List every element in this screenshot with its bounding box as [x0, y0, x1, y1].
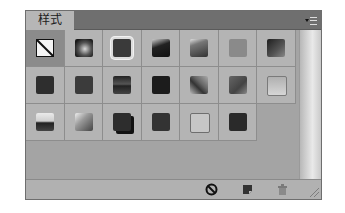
swatch-preview [113, 113, 131, 131]
swatch-preview [152, 76, 170, 94]
swatch-preview [75, 39, 93, 57]
swatch-preview [190, 39, 208, 57]
swatch-preview [229, 76, 247, 94]
no-style-icon [36, 39, 54, 57]
styles-grid [26, 30, 296, 141]
style-swatch-style-9[interactable] [65, 67, 104, 104]
styles-panel: 样式 [25, 10, 322, 200]
swatch-preview [152, 113, 170, 131]
resize-grip[interactable] [309, 187, 319, 197]
swatch-preview [229, 113, 247, 131]
swatch-preview [113, 76, 131, 94]
swatch-preview [36, 76, 54, 94]
style-swatch-style-3[interactable] [103, 30, 142, 67]
swatch-preview [229, 39, 247, 57]
swatch-preview [75, 113, 93, 131]
panel-header: 样式 [26, 11, 321, 30]
style-swatch-style-18[interactable] [142, 104, 181, 141]
style-swatch-style-10[interactable] [103, 67, 142, 104]
style-swatch-style-14[interactable] [257, 67, 296, 104]
style-swatch-style-15[interactable] [26, 104, 65, 141]
styles-content [26, 30, 299, 180]
style-swatch-style-8[interactable] [26, 67, 65, 104]
clear-style-icon[interactable] [205, 183, 218, 196]
swatch-preview [152, 39, 170, 57]
swatch-preview [36, 113, 54, 131]
style-swatch-style-11[interactable] [142, 67, 181, 104]
style-swatch-style-20[interactable] [219, 104, 258, 141]
style-swatch-style-6[interactable] [219, 30, 258, 67]
style-swatch-none[interactable] [26, 30, 65, 67]
style-swatch-style-16[interactable] [65, 104, 104, 141]
style-swatch-style-13[interactable] [219, 67, 258, 104]
panel-footer [26, 179, 321, 199]
swatch-preview [267, 39, 285, 57]
scrollbar[interactable] [299, 30, 321, 180]
panel-menu-icon[interactable] [303, 14, 317, 26]
style-swatch-style-12[interactable] [180, 67, 219, 104]
style-swatch-style-5[interactable] [180, 30, 219, 67]
swatch-preview [190, 113, 210, 133]
swatch-preview [75, 76, 93, 94]
swatch-preview [190, 76, 208, 94]
style-swatch-style-7[interactable] [257, 30, 296, 67]
style-swatch-style-17[interactable] [103, 104, 142, 141]
style-swatch-style-2[interactable] [65, 30, 104, 67]
delete-icon[interactable] [276, 183, 289, 196]
swatch-preview [267, 76, 287, 96]
swatch-preview [113, 39, 131, 57]
style-swatch-style-19[interactable] [180, 104, 219, 141]
style-swatch-style-4[interactable] [142, 30, 181, 67]
new-style-icon[interactable] [241, 183, 254, 196]
tab-styles[interactable]: 样式 [26, 11, 74, 30]
